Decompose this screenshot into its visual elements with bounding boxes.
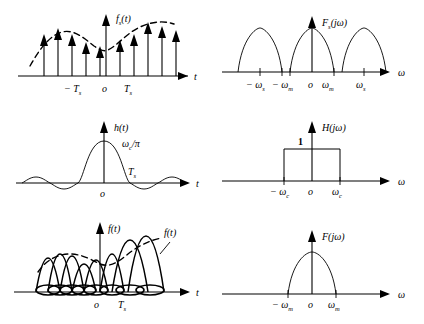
- origin-label: o: [308, 299, 313, 310]
- spectrum-lobe-negative: [238, 28, 282, 72]
- origin-label: o: [308, 79, 313, 90]
- y-axis: [96, 222, 104, 292]
- tick-label-neg-wm: − ωm: [272, 299, 293, 312]
- x-axis-label: ω: [398, 289, 405, 300]
- y-axis: [308, 121, 316, 181]
- x-axis-arrowhead: [380, 68, 390, 76]
- x-axis: [222, 177, 390, 185]
- tick-label-neg-wm: − ωm: [272, 79, 293, 92]
- y-axis-label: h(t): [114, 122, 129, 134]
- tick-label-ts: Ts: [118, 299, 127, 312]
- impulse: [40, 34, 48, 76]
- impulse: [172, 30, 180, 76]
- envelope-annotation-label: f(t): [164, 227, 177, 239]
- origin-label: o: [102, 83, 107, 94]
- panel-reconstructed-signal-spectrum: F(jω) ω o − ωm ωm: [212, 210, 424, 324]
- y-axis-arrowhead: [308, 230, 316, 242]
- x-axis-label: t: [196, 178, 199, 189]
- panel-reconstructed-signal-time: f(t) f(t) t o Ts: [0, 210, 212, 324]
- y-axis-arrowhead: [102, 14, 110, 26]
- panel-sampled-signal-time: fs(t) t o − Ts Ts: [0, 0, 212, 108]
- y-axis-label: Fs(jω): [321, 17, 348, 30]
- x-axis-label: t: [196, 287, 199, 298]
- sampling-theorem-figure: fs(t) t o − Ts Ts: [0, 0, 424, 324]
- annotation-pointer-line: [160, 242, 170, 254]
- period-label: Ts: [128, 166, 137, 179]
- envelope-dashed-curve: [30, 22, 174, 66]
- x-axis: [222, 68, 390, 76]
- y-axis-label: f(t): [108, 223, 121, 235]
- x-axis-arrowhead: [178, 72, 188, 80]
- y-axis-arrowhead: [308, 16, 316, 28]
- impulse: [158, 26, 166, 76]
- impulse: [68, 34, 76, 76]
- x-axis-label: ω: [398, 67, 405, 78]
- y-axis-label: F(jω): [321, 231, 345, 243]
- y-axis: [102, 14, 110, 76]
- panel-filter-impulse-response: h(t) t o ωc/π Ts: [0, 105, 212, 213]
- panel-sampled-signal-spectrum: Fs(jω) ω o − ωs − ωm ωm ωs: [212, 0, 424, 108]
- y-axis-label: H(jω): [321, 122, 346, 134]
- y-axis-label: fs(t): [116, 13, 131, 26]
- impulse: [130, 34, 138, 76]
- impulse: [144, 22, 152, 76]
- tick-label-ts: Ts: [124, 83, 133, 96]
- x-axis-label: t: [194, 71, 197, 82]
- y-axis: [308, 230, 316, 294]
- tick-label-wc: ωc: [332, 186, 342, 199]
- origin-label: o: [100, 188, 105, 199]
- y-axis-arrowhead: [308, 121, 316, 133]
- y-axis: [308, 16, 316, 72]
- tick-label-neg-ts: − Ts: [64, 83, 82, 96]
- x-axis-arrowhead: [380, 290, 390, 298]
- impulse: [116, 40, 124, 76]
- panel-filter-frequency-response: H(jω) ω 1 o − ωc ωc: [212, 105, 424, 213]
- y-axis-arrowhead: [96, 222, 104, 234]
- x-axis: [16, 179, 190, 187]
- origin-label: o: [94, 299, 99, 310]
- tick-label-neg-ws: − ωs: [246, 79, 265, 92]
- x-axis-arrowhead: [180, 288, 190, 296]
- origin-label: o: [308, 186, 313, 197]
- y-axis-arrowhead: [100, 121, 108, 133]
- spectrum-lobe-positive: [342, 28, 386, 72]
- amplitude-label: 1: [298, 136, 303, 147]
- tick-label-neg-wc: − ωc: [270, 186, 289, 199]
- y-axis: [100, 121, 108, 183]
- tick-label-ws: ωs: [356, 79, 366, 92]
- x-axis-label: ω: [398, 176, 405, 187]
- impulse: [82, 42, 90, 76]
- tick-label-wm: ωm: [322, 79, 334, 92]
- tick-label-wm: ωm: [328, 299, 340, 312]
- x-axis-arrowhead: [380, 177, 390, 185]
- peak-amplitude-label: ωc/π: [122, 138, 141, 151]
- x-axis: [222, 290, 390, 298]
